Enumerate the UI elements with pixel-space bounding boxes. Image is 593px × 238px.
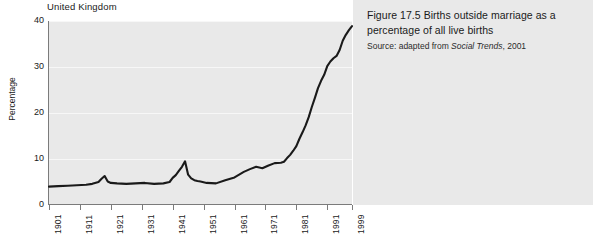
data-line-chart xyxy=(49,21,352,205)
x-tick-1901 xyxy=(49,205,50,210)
caption-panel: Figure 17.5 Births outside marriage as a… xyxy=(353,0,593,205)
y-tick-label-0: 0 xyxy=(18,199,44,209)
caption-source-publication: Social Trends xyxy=(451,41,502,51)
x-tick-label-1931: 1931 xyxy=(146,214,156,234)
caption-source-suffix: , 2001 xyxy=(502,41,526,51)
x-tick-1961 xyxy=(235,205,236,210)
y-tick-label-10: 10 xyxy=(18,153,44,163)
x-tick-label-1941: 1941 xyxy=(177,214,187,234)
y-tick-label-20: 20 xyxy=(18,107,44,117)
chart-region: United Kingdom Percentage 010203040 1901… xyxy=(0,0,353,238)
x-tick-label-1981: 1981 xyxy=(300,214,310,234)
caption-title: Figure 17.5 Births outside marriage as a… xyxy=(367,8,581,37)
x-tick-1911 xyxy=(80,205,81,210)
x-tick-1981 xyxy=(296,205,297,210)
x-tick-label-1961: 1961 xyxy=(239,214,249,234)
caption-inner: Figure 17.5 Births outside marriage as a… xyxy=(367,8,581,52)
x-tick-1951 xyxy=(204,205,205,210)
x-tick-label-1911: 1911 xyxy=(84,215,94,234)
y-axis-tick-labels: 010203040 xyxy=(14,0,44,238)
x-tick-label-1999: 1999 xyxy=(356,214,366,234)
y-tick-label-40: 40 xyxy=(18,15,44,25)
x-tick-label-1971: 1971 xyxy=(269,214,279,234)
x-tick-label-1951: 1951 xyxy=(208,214,218,234)
caption-source-prefix: Source: adapted from xyxy=(367,41,451,51)
y-tick-label-30: 30 xyxy=(18,61,44,71)
x-tick-label-1991: 1991 xyxy=(331,214,341,234)
figure-17-5: United Kingdom Percentage 010203040 1901… xyxy=(0,0,593,238)
x-tick-label-1901: 1901 xyxy=(53,214,63,234)
series-line xyxy=(49,26,352,187)
x-tick-1971 xyxy=(265,205,266,210)
x-tick-label-1921: 1921 xyxy=(115,214,125,234)
x-tick-1921 xyxy=(111,205,112,210)
x-tick-1931 xyxy=(142,205,143,210)
caption-source: Source: adapted from Social Trends, 2001 xyxy=(367,40,581,52)
x-tick-1999 xyxy=(352,205,353,210)
chart-country-label: United Kingdom xyxy=(47,1,117,12)
x-tick-1991 xyxy=(327,205,328,210)
x-tick-1941 xyxy=(173,205,174,210)
